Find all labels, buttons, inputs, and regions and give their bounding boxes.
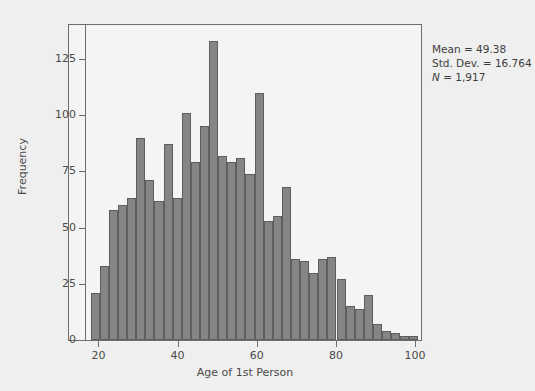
- histogram-bar: [200, 126, 209, 340]
- histogram-bar: [346, 306, 355, 340]
- x-tick-mark: [415, 341, 416, 347]
- histogram-bar: [309, 273, 318, 341]
- y-tick-label: 100: [36, 109, 76, 120]
- y-tick-mark: [79, 284, 86, 285]
- histogram-bar: [373, 324, 382, 340]
- stat-n-value: = 1,917: [440, 71, 486, 83]
- histogram-bar: [100, 266, 109, 340]
- histogram-bar: [245, 174, 254, 341]
- x-tick-label: 100: [395, 350, 435, 362]
- statistics-annotation: Mean = 49.38 Std. Dev. = 16.764 N = 1,91…: [432, 42, 532, 84]
- x-tick-mark: [336, 341, 337, 347]
- chart-canvas: 0255075100125 20406080100 Frequency Age …: [0, 0, 535, 391]
- x-tick-mark: [178, 341, 179, 347]
- histogram-bar: [191, 162, 200, 340]
- y-tick-label: 25: [36, 278, 76, 289]
- histogram-bar: [173, 198, 182, 340]
- histogram-bar: [136, 138, 145, 341]
- histogram-bar: [182, 113, 191, 340]
- x-axis-title: Age of 1st Person: [68, 366, 422, 379]
- histogram-bar: [255, 93, 264, 341]
- stat-std-dev: Std. Dev. = 16.764: [432, 56, 532, 70]
- y-tick-label: 50: [36, 222, 76, 233]
- histogram-bar: [236, 158, 245, 340]
- x-tick-label: 20: [78, 350, 118, 362]
- histogram-bar: [118, 205, 127, 340]
- histogram-bar: [318, 259, 327, 340]
- histogram-bar: [273, 216, 282, 340]
- y-tick-label: 75: [36, 165, 76, 176]
- histogram-bar: [382, 331, 391, 340]
- x-tick-label: 60: [237, 350, 277, 362]
- histogram-bar: [164, 144, 173, 340]
- histogram-bar: [291, 259, 300, 340]
- histogram-bar: [327, 257, 336, 340]
- histogram-bar: [209, 41, 218, 340]
- x-tick-label: 80: [316, 350, 356, 362]
- y-tick-mark: [79, 115, 86, 116]
- histogram-bar: [355, 309, 364, 341]
- x-axis-line: [68, 340, 422, 341]
- y-axis-title: Frequency: [16, 112, 29, 222]
- histogram-bar: [364, 295, 373, 340]
- histogram-bar: [264, 221, 273, 340]
- histogram-bar: [218, 156, 227, 341]
- histogram-bar: [300, 261, 309, 340]
- histogram-bar: [109, 210, 118, 341]
- histogram-bar: [227, 162, 236, 340]
- y-axis-line: [85, 24, 86, 341]
- histogram-bar: [154, 201, 163, 341]
- y-tick-label: 0: [36, 334, 76, 345]
- y-tick-mark: [79, 340, 86, 341]
- stat-n: N = 1,917: [432, 70, 532, 84]
- x-tick-label: 40: [158, 350, 198, 362]
- stat-n-symbol: N: [432, 71, 440, 83]
- y-tick-mark: [79, 59, 86, 60]
- histogram-bar: [127, 198, 136, 340]
- x-tick-mark: [98, 341, 99, 347]
- y-tick-mark: [79, 228, 86, 229]
- histogram-bar: [91, 293, 100, 340]
- histogram-bar: [391, 333, 400, 340]
- stat-mean: Mean = 49.38: [432, 42, 532, 56]
- histogram-bars: [85, 25, 421, 340]
- y-tick-mark: [79, 171, 86, 172]
- histogram-bar: [282, 187, 291, 340]
- y-tick-label: 125: [36, 53, 76, 64]
- histogram-bar: [145, 180, 154, 340]
- x-tick-mark: [257, 341, 258, 347]
- histogram-bar: [337, 279, 346, 340]
